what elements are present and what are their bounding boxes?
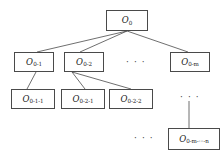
- tree-node-label: O0-2-1: [72, 95, 93, 104]
- tree-node-label: O0-1: [26, 58, 42, 67]
- tree-node-n-0-m[interactable]: O0-m: [170, 52, 210, 72]
- edge-root-to-0-m: [127, 31, 188, 52]
- tree-node-label: O0-2: [76, 58, 92, 67]
- ellipsis-level3-right: · · ·: [180, 93, 200, 102]
- tree-node-n-0-1[interactable]: O0-1: [14, 52, 54, 72]
- tree-node-root[interactable]: O0: [106, 10, 148, 31]
- ellipsis-level2: · · ·: [126, 58, 146, 67]
- tree-node-label: O0-m: [181, 58, 199, 67]
- tree-node-n-0-2[interactable]: O0-2: [64, 52, 104, 72]
- tree-node-label: O0: [122, 16, 133, 25]
- tree-node-label: O0-1-1: [22, 95, 43, 104]
- tree-node-label: O0-m-···-n: [179, 135, 209, 144]
- edge-0-2-to-0-2-2: [72, 72, 131, 89]
- ellipsis-level4-left: · · ·: [134, 134, 154, 143]
- edge-root-to-0-2: [80, 31, 127, 52]
- edge-0-2-to-0-2-1: [72, 72, 85, 89]
- tree-node-n-0-2-2[interactable]: O0-2-2: [109, 89, 153, 109]
- tree-node-n-0-1-1[interactable]: O0-1-1: [11, 89, 55, 109]
- tree-node-label: O0-2-2: [120, 95, 141, 104]
- edge-root-to-0-1: [37, 31, 127, 52]
- tree-node-n-0-2-1[interactable]: O0-2-1: [61, 89, 105, 109]
- tree-node-n-0-m-n[interactable]: O0-m-···-n: [168, 128, 220, 150]
- tree-diagram: O0O0-1O0-2O0-mO0-1-1O0-2-1O0-2-2O0-m-···…: [0, 0, 224, 157]
- edge-0-1-to-0-1-1: [27, 72, 36, 89]
